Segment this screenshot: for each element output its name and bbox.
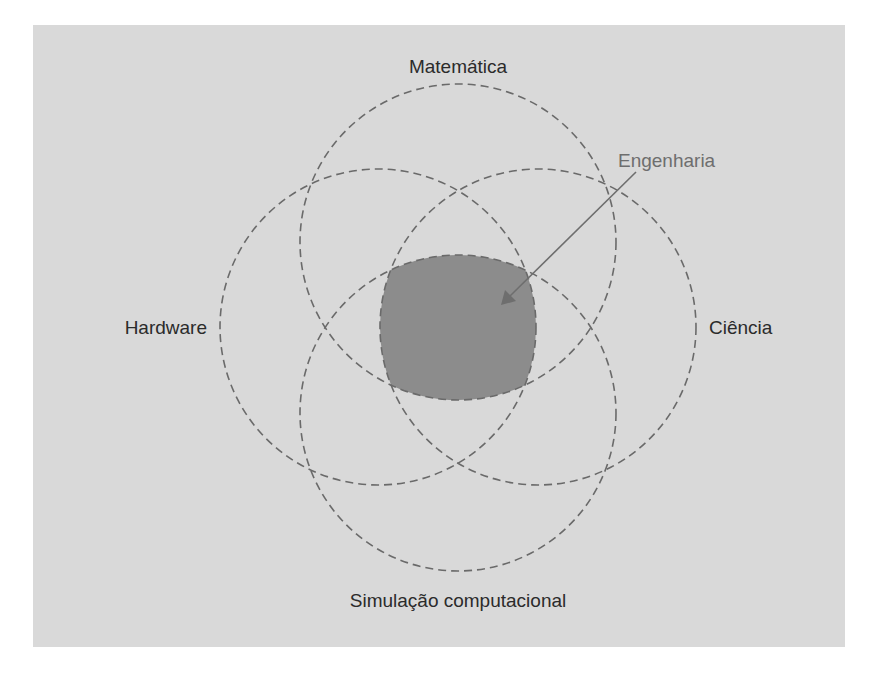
label-hardware: Hardware — [125, 317, 207, 338]
label-matematica: Matemática — [409, 56, 508, 77]
label-simulacao: Simulação computacional — [350, 590, 567, 611]
venn-diagram: Matemática Hardware Ciência Simulação co… — [0, 0, 884, 675]
label-ciencia: Ciência — [709, 317, 773, 338]
label-engenharia: Engenharia — [618, 150, 716, 171]
